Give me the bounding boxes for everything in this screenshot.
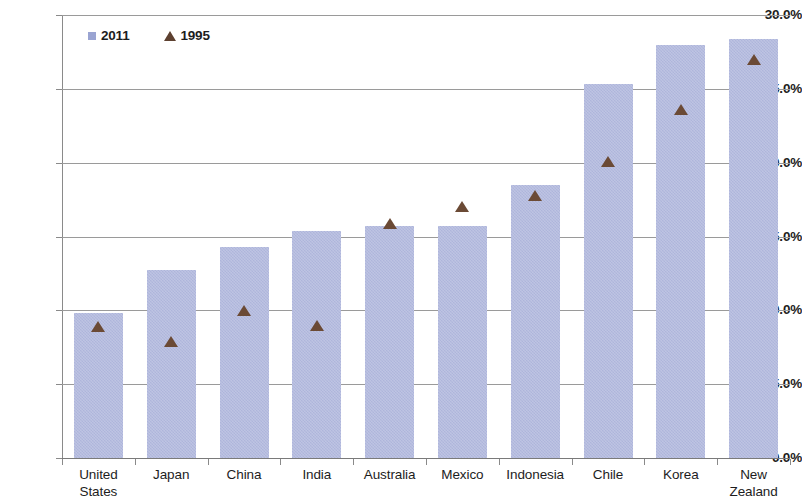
x-axis-category-label-line1: Indonesia: [506, 467, 564, 482]
bar[interactable]: [220, 247, 269, 458]
x-axis-category-label-line1: Chile: [593, 467, 623, 482]
data-marker[interactable]: [674, 104, 688, 115]
x-axis-tick-mark: [790, 459, 791, 465]
bar[interactable]: [584, 84, 633, 458]
x-axis-category-label: New Zealand: [717, 466, 790, 500]
x-axis-category-label-line2: States: [62, 483, 135, 500]
gridline: [62, 458, 790, 459]
legend-item-1995[interactable]: 1995: [164, 28, 210, 43]
x-axis-tick-mark: [644, 459, 645, 465]
x-axis-category-label: Australia: [353, 466, 426, 483]
x-axis-tick-mark: [717, 459, 718, 465]
bar[interactable]: [729, 39, 778, 458]
x-axis-category-label: China: [208, 466, 281, 483]
x-axis-category-label: India: [280, 466, 353, 483]
x-axis-category-label: Mexico: [426, 466, 499, 483]
data-marker[interactable]: [310, 320, 324, 331]
bar[interactable]: [365, 226, 414, 458]
x-axis-tick-mark: [62, 459, 63, 465]
data-marker[interactable]: [383, 218, 397, 229]
x-axis-tick-mark: [280, 459, 281, 465]
chart-legend: 2011 1995: [88, 28, 210, 43]
square-icon: [88, 32, 96, 40]
data-marker[interactable]: [455, 201, 469, 212]
data-marker[interactable]: [91, 321, 105, 332]
x-axis-category-label-line1: India: [302, 467, 331, 482]
x-axis-tick-mark: [135, 459, 136, 465]
legend-item-2011[interactable]: 2011: [88, 28, 130, 43]
x-axis-category-label-line1: China: [227, 467, 262, 482]
triangle-icon: [164, 31, 176, 41]
x-axis-category-label: Indonesia: [499, 466, 572, 483]
data-marker[interactable]: [747, 54, 761, 65]
bar[interactable]: [292, 231, 341, 458]
legend-label-2011: 2011: [101, 28, 130, 43]
x-axis-category-label-line1: United: [79, 467, 117, 482]
bar[interactable]: [511, 185, 560, 458]
x-axis-category-label-line1: New Zealand: [730, 467, 778, 499]
x-axis-category-label: Korea: [644, 466, 717, 483]
data-marker[interactable]: [528, 190, 542, 201]
x-axis-tick-mark: [426, 459, 427, 465]
x-axis-tick-mark: [499, 459, 500, 465]
gridline: [62, 15, 790, 16]
x-axis-category-label-line1: Japan: [153, 467, 189, 482]
x-axis-tick-mark: [572, 459, 573, 465]
chart-container: 0.0%5.0%10.0%15.0%20.0%25.0%30.0% United…: [0, 0, 802, 502]
x-axis-category-label: Chile: [572, 466, 645, 483]
x-axis-category-label-line1: Korea: [663, 467, 699, 482]
data-marker[interactable]: [601, 156, 615, 167]
x-axis-category-label-line1: Australia: [364, 467, 416, 482]
x-axis-category-label: Japan: [135, 466, 208, 483]
data-marker[interactable]: [164, 336, 178, 347]
bar[interactable]: [438, 226, 487, 458]
legend-label-1995: 1995: [181, 28, 210, 43]
x-axis-category-label-line1: Mexico: [441, 467, 483, 482]
bar[interactable]: [147, 270, 196, 458]
data-marker[interactable]: [237, 305, 251, 316]
x-axis-category-label: UnitedStates: [62, 466, 135, 500]
x-axis-tick-mark: [208, 459, 209, 465]
x-axis-tick-mark: [353, 459, 354, 465]
bar[interactable]: [74, 313, 123, 458]
plot-area: [62, 15, 790, 458]
